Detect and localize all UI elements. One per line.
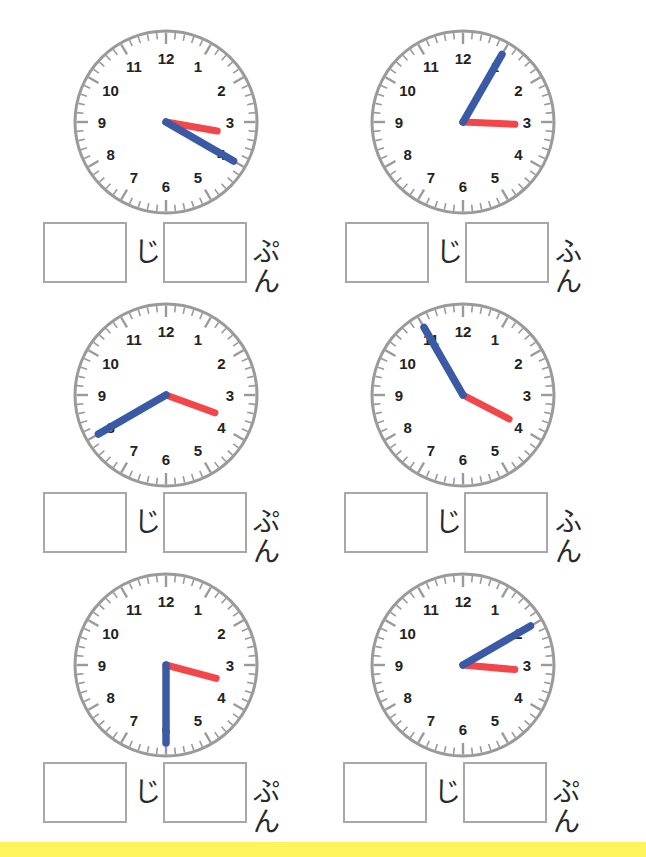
hour-unit-label: じ	[434, 777, 461, 807]
clock-number: 6	[459, 178, 467, 195]
clock-number: 6	[162, 451, 170, 468]
clock-number: 6	[459, 721, 467, 738]
clock-number: 7	[427, 442, 435, 459]
clock-number: 5	[491, 712, 499, 729]
clock-number: 2	[514, 355, 522, 372]
clock-cell-3: 121234567891011 じ ぷん	[0, 272, 300, 542]
clock-number: 10	[102, 355, 119, 372]
clock-face: 121234567891011	[300, 272, 600, 492]
clock-number: 5	[491, 442, 499, 459]
clock-number: 3	[523, 657, 531, 674]
clock-number: 5	[491, 169, 499, 186]
clock-number: 11	[126, 331, 142, 348]
clock-number: 9	[98, 114, 106, 131]
clock-number: 3	[226, 387, 234, 404]
clock-face: 121234567891011	[0, 542, 300, 762]
clock-number: 8	[403, 146, 411, 163]
clock-number: 9	[395, 657, 403, 674]
clock-number: 3	[523, 114, 531, 131]
clock-number: 10	[399, 82, 416, 99]
clock-number: 12	[455, 593, 472, 610]
clock-number: 2	[217, 355, 225, 372]
clock-number: 2	[217, 625, 225, 642]
clock-number: 3	[523, 387, 531, 404]
clock-number: 4	[514, 689, 523, 706]
hour-unit-label: じ	[436, 237, 463, 267]
clock-number: 9	[395, 114, 403, 131]
clock-number: 8	[106, 689, 114, 706]
clock-number: 6	[459, 451, 467, 468]
hour-unit-label: じ	[134, 237, 161, 267]
clock-number: 7	[130, 169, 138, 186]
clock-number: 2	[514, 82, 522, 99]
hour-hand	[463, 122, 515, 124]
hour-hand	[463, 665, 515, 670]
clock-number: 8	[403, 419, 411, 436]
minute-unit-label: ぷん	[553, 777, 600, 837]
clock-number: 1	[491, 331, 499, 348]
clock-number: 1	[194, 601, 202, 618]
clock-cell-1: 121234567891011 じ ぷん	[0, 0, 300, 270]
analog-clock: 121234567891011	[300, 272, 600, 492]
clock-number: 4	[217, 419, 226, 436]
clock-face: 121234567891011	[300, 542, 600, 762]
clock-number: 10	[399, 625, 416, 642]
minute-unit-label: ぷん	[253, 777, 300, 837]
analog-clock: 121234567891011	[0, 542, 300, 762]
clock-number: 9	[98, 387, 106, 404]
clock-cell-4: 121234567891011 じ ふん	[300, 272, 600, 542]
clock-number: 12	[158, 50, 175, 67]
clock-number: 7	[427, 169, 435, 186]
clock-cell-2: 121234567891011 じ ふん	[300, 0, 600, 270]
clock-number: 11	[126, 601, 142, 618]
bottom-highlight-band	[0, 842, 646, 857]
minute-answer-box[interactable]	[463, 762, 547, 823]
clock-number: 12	[455, 323, 472, 340]
clock-number: 7	[130, 712, 138, 729]
clock-number: 5	[194, 169, 202, 186]
clock-number: 11	[423, 601, 439, 618]
analog-clock: 121234567891011	[0, 0, 300, 220]
analog-clock: 121234567891011	[300, 542, 600, 762]
clock-number: 11	[126, 58, 142, 75]
clock-cell-5: 121234567891011 じ ぷん	[0, 542, 300, 812]
minute-answer-box[interactable]	[163, 762, 247, 823]
clock-number: 12	[158, 593, 175, 610]
clock-cell-6: 121234567891011 じ ぷん	[300, 542, 600, 812]
clock-number: 9	[395, 387, 403, 404]
clock-number: 4	[514, 419, 523, 436]
clock-number: 5	[194, 712, 202, 729]
clock-number: 3	[226, 657, 234, 674]
clock-face: 121234567891011	[300, 0, 600, 220]
clock-number: 1	[491, 601, 499, 618]
clock-number: 5	[194, 442, 202, 459]
clock-face: 121234567891011	[0, 272, 300, 492]
clock-number: 11	[423, 58, 439, 75]
clock-number: 6	[162, 178, 170, 195]
hour-answer-box[interactable]	[343, 762, 427, 823]
hour-unit-label: じ	[435, 507, 462, 537]
clock-number: 12	[455, 50, 472, 67]
clock-number: 3	[226, 114, 234, 131]
clock-number: 8	[106, 146, 114, 163]
clock-number: 10	[399, 355, 416, 372]
hour-unit-label: じ	[134, 507, 161, 537]
clock-number: 10	[102, 82, 119, 99]
analog-clock: 121234567891011	[0, 272, 300, 492]
clock-number: 7	[130, 442, 138, 459]
clock-number: 8	[403, 689, 411, 706]
clock-number: 10	[102, 625, 119, 642]
clock-number: 1	[194, 331, 202, 348]
analog-clock: 121234567891011	[300, 0, 600, 220]
clock-number: 4	[217, 689, 226, 706]
hour-unit-label: じ	[134, 777, 161, 807]
clock-number: 12	[158, 323, 175, 340]
clock-number: 1	[194, 58, 202, 75]
clock-face: 121234567891011	[0, 0, 300, 220]
clock-number: 7	[427, 712, 435, 729]
hour-answer-box[interactable]	[43, 762, 127, 823]
clock-number: 2	[217, 82, 225, 99]
clock-number: 4	[514, 146, 523, 163]
clock-number: 9	[98, 657, 106, 674]
